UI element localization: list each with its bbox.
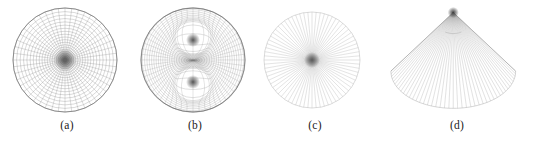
- panel-a-label: (a): [0, 118, 134, 132]
- figure-panel-d: (d): [390, 0, 524, 143]
- panel-c-label: (c): [248, 118, 382, 132]
- panel-b-graphic: [128, 0, 262, 118]
- panel-a-graphic: [0, 0, 134, 118]
- figure-container: (a) (b) (c) (d): [0, 0, 534, 143]
- panel-d-label: (d): [390, 118, 524, 132]
- figure-panel-c: (c): [248, 0, 382, 143]
- figure-panel-a: (a): [0, 0, 134, 143]
- figure-panel-b: (b): [128, 0, 262, 143]
- panel-d-graphic: [390, 0, 524, 118]
- panel-b-label: (b): [128, 118, 262, 132]
- panel-c-graphic: [248, 0, 382, 118]
